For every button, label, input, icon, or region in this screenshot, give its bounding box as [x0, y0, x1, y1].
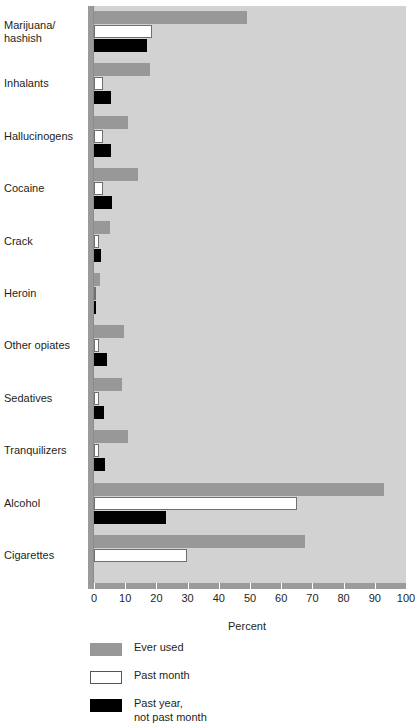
tick-mark: [250, 583, 251, 590]
bar-year: [94, 301, 96, 314]
black-swatch: [90, 699, 122, 712]
legend-item: Ever used: [90, 640, 390, 668]
white-swatch: [90, 671, 122, 684]
tick-mark: [188, 583, 189, 590]
bar-group: [94, 6, 406, 58]
bar-group: [94, 111, 406, 163]
bar-ever: [94, 168, 138, 181]
category-label: Cocaine: [4, 182, 80, 195]
category-label: Crack: [4, 235, 80, 248]
tick-mark: [281, 583, 282, 590]
bar-group: [94, 478, 406, 530]
tick-mark: [375, 583, 376, 590]
bar-ever: [94, 325, 124, 338]
category-label: Tranquilizers: [4, 444, 80, 457]
bar-month: [94, 130, 103, 143]
tick-label: 100: [393, 592, 419, 605]
bar-group: [94, 163, 406, 215]
bar-ever: [94, 63, 150, 76]
tick-mark: [125, 583, 126, 590]
bar-year: [94, 196, 112, 209]
category-label: Heroin: [4, 287, 80, 300]
bar-year: [94, 353, 107, 366]
tick-label: 0: [81, 592, 107, 605]
bar-ever: [94, 273, 100, 286]
bar-group: [94, 216, 406, 268]
tick-mark: [156, 583, 157, 590]
bar-month: [94, 77, 103, 90]
bar-group: [94, 425, 406, 477]
tick-label: 60: [268, 592, 294, 605]
bar-group: [94, 268, 406, 320]
bar-group: [94, 373, 406, 425]
bar-ever: [94, 430, 128, 443]
bar-ever: [94, 11, 247, 24]
bar-month: [94, 444, 99, 457]
bar-ever: [94, 378, 122, 391]
tick-mark: [406, 583, 407, 590]
bar-month: [94, 497, 297, 510]
tick-label: 20: [143, 592, 169, 605]
legend-label: Ever used: [134, 640, 184, 654]
tick-label: 50: [237, 592, 263, 605]
bar-month: [94, 549, 187, 562]
category-label: Marijuana/hashish: [4, 19, 80, 45]
tick-label: 30: [175, 592, 201, 605]
tick-mark: [312, 583, 313, 590]
category-label: Cigarettes: [4, 549, 80, 562]
x-axis-ticks: 0102030405060708090100: [88, 583, 408, 609]
bar-year: [94, 511, 166, 524]
tick-label: 90: [362, 592, 388, 605]
bar-ever: [94, 535, 305, 548]
gray-swatch: [90, 643, 122, 656]
bar-ever: [94, 221, 110, 234]
horizontal-bar-chart: Marijuana/hashishInhalantsHallucinogensC…: [0, 0, 420, 726]
bar-month: [94, 235, 99, 248]
bar-month: [94, 392, 99, 405]
tick-label: 70: [299, 592, 325, 605]
bar-year: [94, 91, 111, 104]
legend: Ever usedPast monthPast year, not past m…: [90, 640, 390, 726]
category-label: Other opiates: [4, 339, 80, 352]
legend-label: Past month: [134, 668, 190, 682]
legend-label: Past year, not past month: [134, 696, 207, 724]
bar-groups: [94, 6, 406, 583]
x-axis-title: Percent: [88, 620, 406, 632]
bar-year: [94, 406, 104, 419]
legend-item: Past month: [90, 668, 390, 696]
bar-group: [94, 320, 406, 372]
tick-mark: [344, 583, 345, 590]
bar-group: [94, 530, 406, 582]
category-label: Sedatives: [4, 392, 80, 405]
bar-month: [94, 287, 96, 300]
bar-group: [94, 58, 406, 110]
category-axis-labels: Marijuana/hashishInhalantsHallucinogensC…: [0, 6, 84, 583]
tick-label: 10: [112, 592, 138, 605]
bar-ever: [94, 483, 384, 496]
tick-mark: [219, 583, 220, 590]
bar-year: [94, 39, 147, 52]
bar-ever: [94, 116, 128, 129]
bar-year: [94, 249, 101, 262]
bar-month: [94, 339, 99, 352]
legend-item: Past year, not past month: [90, 696, 390, 726]
bar-year: [94, 144, 111, 157]
category-label: Hallucinogens: [4, 130, 80, 143]
category-label: Alcohol: [4, 497, 80, 510]
tick-mark: [94, 583, 95, 590]
bar-month: [94, 25, 152, 38]
tick-label: 40: [206, 592, 232, 605]
bar-year: [94, 458, 105, 471]
bar-month: [94, 182, 103, 195]
category-label: Inhalants: [4, 77, 80, 90]
tick-label: 80: [331, 592, 357, 605]
